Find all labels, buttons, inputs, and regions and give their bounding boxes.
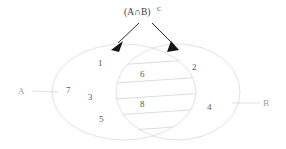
region-number: 1 (98, 58, 103, 68)
page-title: (A∩B) (124, 7, 150, 18)
set-a-leader-line (32, 91, 58, 92)
region-number: 4 (207, 102, 212, 112)
set-label-a: A (18, 86, 25, 96)
region-number: 8 (140, 99, 145, 109)
ellipse-set-b (116, 44, 240, 140)
region-number: 7 (66, 85, 71, 95)
annotation-arrow-left (111, 23, 139, 52)
region-number: 5 (99, 114, 104, 124)
page-title-superscript: C (157, 5, 161, 12)
set-label-b: B (263, 98, 269, 108)
venn-diagram-svg: (A∩B) C A B 1 7 3 5 6 8 2 4 (0, 0, 286, 149)
region-number: 2 (192, 62, 197, 72)
region-number: 3 (88, 92, 93, 102)
region-number: 6 (140, 69, 145, 79)
ellipse-set-a (52, 44, 196, 140)
annotation-arrow-right (152, 23, 179, 52)
venn-diagram-canvas: (A∩B) C A B 1 7 3 5 6 8 2 4 (0, 0, 286, 149)
